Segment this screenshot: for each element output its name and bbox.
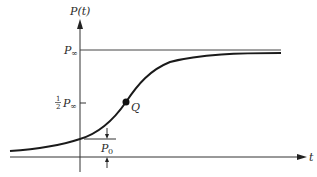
inflection-point-q	[123, 99, 130, 106]
half-denominator: 2	[56, 103, 60, 111]
p0-sub: 0	[108, 147, 113, 156]
half-p-sub: ∞	[70, 102, 77, 111]
diagram-canvas: P(t) P ∞ 1 2 P ∞ Q P 0 t	[0, 0, 317, 177]
q-label: Q	[131, 101, 140, 114]
x-axis-label: t	[309, 151, 314, 164]
logistic-curve	[10, 53, 281, 151]
y-axis-label: P(t)	[69, 5, 90, 18]
p0-upper-arrow-icon	[105, 134, 109, 139]
y-axis-arrow-icon	[77, 19, 83, 29]
logistic-diagram: P(t) P ∞ 1 2 P ∞ Q P 0 t	[0, 0, 317, 177]
p-inf-sub: ∞	[71, 49, 78, 58]
half-numerator: 1	[56, 95, 60, 103]
p0-lower-arrow-icon	[105, 157, 109, 162]
x-axis-arrow-icon	[297, 154, 307, 160]
